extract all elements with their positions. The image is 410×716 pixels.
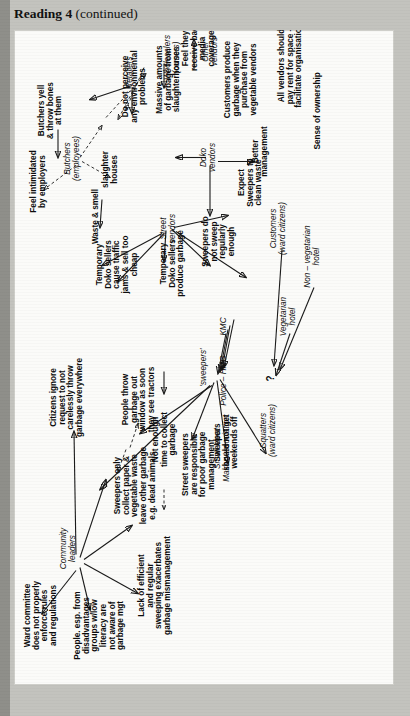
concern-sweepers-not-sweep[interactable]: Sweepers donot sweepregularly enough — [202, 209, 237, 273]
concern-citizens-ignore[interactable]: Citizens ignorerequest to notcarelessly … — [50, 351, 85, 443]
concern-not-enough-time[interactable]: Not enoughtime to collectgarbage — [152, 409, 178, 469]
concern-massive-garbage[interactable]: Massive amountsof garbage fromslaughterh… — [156, 37, 182, 121]
concern-street-sweepers-responsible[interactable]: Street sweepersare responsiblefor poor g… — [182, 423, 217, 505]
concern-sense-of-ownership[interactable]: Sense of ownership — [314, 41, 323, 149]
figure-panel: Communityleaders Butchers(employees) Ret… — [14, 30, 394, 685]
concern-feel-bad-media[interactable]: Feel theyreceive badmedia coverage — [182, 30, 217, 77]
page-root: Reading 4 (continued) — [0, 0, 410, 716]
actor-non-vegetarian-hotel[interactable]: Non – vegetarianhotel — [304, 219, 321, 293]
concern-people-disadvantaged[interactable]: People. esp. fromdisadvantagesgroups w/l… — [74, 583, 126, 667]
concern-all-vendors-rent[interactable]: All vendors shouldpay rent for space –fa… — [278, 30, 304, 113]
actor-butchers[interactable]: Butchers(employees) — [64, 131, 81, 185]
concern-temporary-doko-garbage[interactable]: TemporaryDoko sellersproduce garbage — [160, 229, 186, 297]
actor-vegetarian-hotel[interactable]: Vegetarianhotel — [280, 291, 297, 341]
actor-kmc[interactable]: KMC — [220, 311, 229, 341]
concern-do-not-perceive[interactable]: Do not perceiveany environmentalproblems — [122, 43, 148, 129]
concern-ward-committee[interactable]: Ward committeedoes not properlyenforce r… — [24, 567, 59, 663]
concern-slaughter-houses[interactable]: slaughterhouses — [102, 145, 119, 193]
actor-doko-vendors[interactable]: Dokovendors — [200, 137, 217, 177]
concern-feel-intimidated[interactable]: Feel intimidatedby employers — [30, 139, 47, 223]
actor-police-hmg[interactable]: Police – HMG — [220, 351, 229, 409]
concern-lack-efficient-sweeping[interactable]: Lack of efficientand regularsweeping exa… — [138, 529, 173, 641]
actor-squatters[interactable]: Squatters(ward citizens) — [260, 399, 277, 461]
actor-question-mark[interactable]: ? — [266, 371, 277, 385]
continued-label: (continued) — [76, 6, 138, 21]
concern-temporary-doko-traffic[interactable]: TemporaryDoko sellerscause trafficjams &… — [96, 231, 139, 297]
diagram-canvas: Communityleaders Butchers(employees) Ret… — [14, 30, 394, 685]
concern-customers-produce-garbage[interactable]: Customers producegarbage when theypurcha… — [224, 30, 259, 129]
actor-community-leaders[interactable]: Communityleaders — [60, 519, 77, 577]
actor-sweepers[interactable]: 'sweepers' — [200, 345, 209, 389]
actor-customers[interactable]: Customers(ward citizens) — [270, 199, 287, 257]
page-header: Reading 4 (continued) — [14, 6, 404, 28]
concern-sweepers-weekends[interactable]: Sweepersshould not getweekends off — [214, 411, 240, 473]
concern-expect-sweepers[interactable]: ExpectSweepers toclean waste — [238, 155, 264, 209]
reading-label: Reading 4 — [14, 6, 72, 21]
concern-butchers-yell[interactable]: Butchers yell& throw bonesat them — [38, 79, 64, 141]
